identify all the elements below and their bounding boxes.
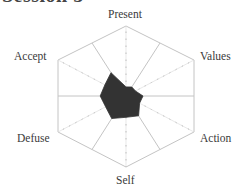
radar-chart [0,0,245,196]
axis-label-accept: Accept [14,50,47,63]
axis-label-defuse: Defuse [17,132,50,145]
axis-label-self: Self [116,174,135,187]
axis-label-values: Values [200,50,231,63]
axis-label-present: Present [108,8,142,21]
axis-label-action: Action [200,132,231,145]
